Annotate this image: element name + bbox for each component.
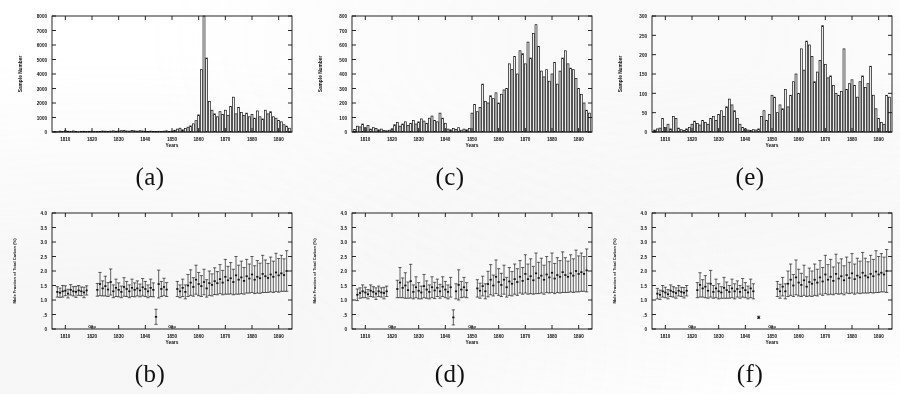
data-point	[715, 288, 717, 290]
histogram-bar	[431, 116, 433, 132]
histogram-bar	[734, 111, 736, 132]
histogram-bar	[702, 120, 704, 132]
data-point	[683, 292, 685, 294]
data-point	[248, 278, 250, 280]
histogram-bar	[240, 112, 242, 132]
histogram-bar	[816, 72, 818, 132]
data-point	[854, 278, 856, 280]
histogram-bar	[468, 128, 470, 132]
histogram-bar	[184, 129, 186, 132]
data-point	[72, 290, 74, 292]
histogram-bar	[503, 90, 505, 132]
histogram-bar	[460, 130, 462, 132]
data-point	[586, 270, 588, 272]
histogram-bar	[107, 131, 109, 132]
panel-c-svg: 0100200300400500600700800181018201830184…	[300, 4, 600, 164]
histogram-bar	[99, 131, 101, 132]
x-tick-label: 1810	[60, 334, 71, 339]
panel-e: 0501001502002503001810182018301840185018…	[600, 0, 900, 197]
data-point	[583, 273, 585, 275]
y-tick-label: 200	[639, 53, 647, 58]
histogram-bar	[675, 118, 677, 132]
data-point	[846, 274, 848, 276]
panel-f-caption: (f)	[600, 357, 900, 391]
y-tick-label: 1.5	[341, 284, 348, 289]
data-point	[466, 289, 468, 291]
histogram-bar	[516, 74, 518, 132]
data-point	[283, 274, 285, 276]
x-tick-label: 1870	[520, 137, 531, 142]
data-point	[728, 291, 730, 293]
histogram-bar	[246, 113, 248, 132]
data-point	[554, 278, 556, 280]
y-tick-label: .5	[43, 313, 47, 318]
histogram-bar	[760, 117, 762, 132]
plot-frame	[652, 16, 892, 132]
histogram-bar	[206, 58, 208, 132]
x-tick-label: 1850	[167, 334, 178, 339]
y-tick-label: 0	[44, 327, 47, 332]
data-point	[412, 291, 414, 293]
histogram-bar	[62, 131, 64, 132]
data-point	[707, 290, 709, 292]
data-point	[875, 271, 877, 273]
histogram-bar	[442, 118, 444, 132]
panel-a-svg: 0100020003000400050006000700080001810182…	[0, 4, 300, 164]
histogram-bar	[758, 129, 760, 132]
data-point	[840, 275, 842, 277]
data-point	[227, 279, 229, 281]
data-point	[452, 317, 454, 319]
plot-frame	[652, 213, 892, 329]
histogram-bar	[238, 107, 240, 132]
histogram-bar	[182, 130, 184, 132]
data-point	[482, 285, 484, 287]
data-point	[444, 289, 446, 291]
data-point	[96, 289, 98, 291]
y-axis-label: Sample Number	[318, 56, 323, 93]
histogram-bar	[410, 123, 412, 132]
histogram-bar	[720, 111, 722, 132]
histogram-bar	[739, 124, 741, 132]
data-point	[460, 289, 462, 291]
plot-frame	[52, 213, 292, 329]
x-tick-label: 1890	[874, 137, 885, 142]
data-point	[580, 271, 582, 273]
data-point	[723, 287, 725, 289]
x-tick-label: 1890	[574, 334, 585, 339]
data-point	[139, 290, 141, 292]
data-point	[476, 288, 478, 290]
histogram-bar	[532, 33, 534, 132]
data-point	[532, 279, 534, 281]
x-tick-label: 1820	[387, 334, 398, 339]
data-point	[872, 275, 874, 277]
panel-d: 0.51.01.52.02.53.03.54.01810182018301840…	[300, 197, 600, 394]
y-tick-label: 4000	[37, 72, 48, 77]
data-point	[426, 289, 428, 291]
histogram-bar	[559, 71, 561, 132]
data-point	[487, 283, 489, 285]
histogram-bar	[126, 131, 128, 132]
panel-f-svg: 0.51.01.52.02.53.03.54.01810182018301840…	[600, 201, 900, 361]
data-point	[142, 286, 144, 288]
y-tick-label: 300	[339, 87, 347, 92]
histogram-bar	[404, 122, 406, 132]
data-point	[795, 277, 797, 279]
x-tick-label: 1810	[360, 137, 371, 142]
data-point	[386, 290, 388, 292]
histogram-bar	[570, 68, 572, 132]
data-point	[123, 286, 125, 288]
data-point	[696, 289, 698, 291]
data-point	[399, 282, 401, 284]
histogram-bar	[152, 131, 154, 132]
histogram-bar	[492, 99, 494, 132]
data-point	[747, 292, 749, 294]
y-tick-label: 50	[642, 111, 648, 116]
histogram-bar	[840, 91, 842, 132]
data-point	[731, 288, 733, 290]
data-point	[267, 277, 269, 279]
histogram-bar	[731, 105, 733, 132]
data-point	[667, 293, 669, 295]
data-point	[272, 276, 274, 278]
data-point	[710, 283, 712, 285]
data-point	[519, 276, 521, 278]
